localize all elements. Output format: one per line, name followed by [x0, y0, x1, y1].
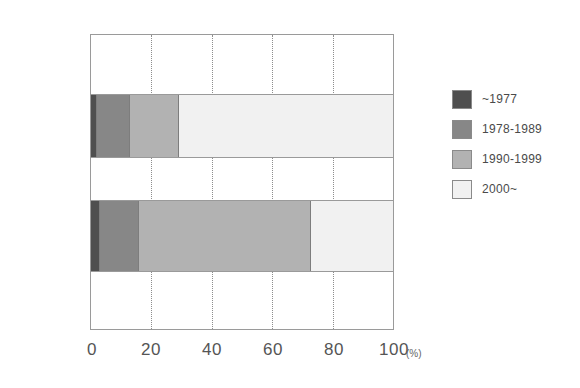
legend-label-2000: 2000~ — [482, 182, 517, 196]
gridline-40 — [212, 35, 213, 329]
legend-item-1990-1999: 1990-1999 — [452, 144, 542, 174]
x-tick-80: 80 — [324, 340, 344, 360]
bar-segment-a-1978-1989 — [97, 95, 130, 157]
bar-segment-b-1990-1999 — [139, 201, 311, 271]
gridline-80 — [333, 35, 334, 329]
x-tick-100: 100 — [379, 340, 409, 360]
legend-item-1978-1989: 1978-1989 — [452, 114, 542, 144]
legend: ~1977 1978-1989 1990-1999 2000~ — [452, 84, 542, 204]
legend-label-1978-1989: 1978-1989 — [482, 122, 542, 136]
legend-swatch-icon-1977 — [452, 90, 472, 109]
bar-segment-a-1990-1999 — [130, 95, 178, 157]
legend-swatch-icon-1978-1989 — [452, 120, 472, 139]
legend-swatch-icon-1990-1999 — [452, 150, 472, 169]
legend-label-1977: ~1977 — [482, 92, 517, 106]
gridline-60 — [272, 35, 273, 329]
legend-item-2000: 2000~ — [452, 174, 542, 204]
bar-segment-b-1977 — [91, 201, 100, 271]
bar-segment-b-1978-1989 — [100, 201, 139, 271]
legend-label-1990-1999: 1990-1999 — [482, 152, 542, 166]
x-tick-20: 20 — [141, 340, 161, 360]
bar-segment-b-2000 — [311, 201, 393, 271]
x-tick-0: 0 — [87, 340, 97, 360]
legend-swatch-icon-2000 — [452, 180, 472, 199]
plot-area — [90, 34, 394, 330]
x-tick-40: 40 — [202, 340, 222, 360]
bar-row-a — [91, 94, 393, 158]
legend-item-1977: ~1977 — [452, 84, 542, 114]
stacked-bar-chart: A 街道 B 街道 0 20 40 60 80 100 (%) ~1977 19… — [0, 0, 580, 388]
x-axis-unit-label: (%) — [406, 348, 422, 359]
bar-segment-a-2000 — [179, 95, 393, 157]
gridline-20 — [151, 35, 152, 329]
x-tick-60: 60 — [263, 340, 283, 360]
bar-row-b — [91, 200, 393, 272]
